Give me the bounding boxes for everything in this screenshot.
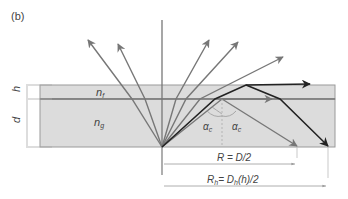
film-thickness-label: h <box>10 86 22 92</box>
glass-thickness-label: d <box>10 116 22 123</box>
radius-h-label: Rh= Dh(h)/2 <box>207 174 259 186</box>
waveguide-diagram: h d nf ng αc αc R = D/2 Rh= Dh(h)/2 <box>0 0 348 199</box>
radius-label: R = D/2 <box>217 152 252 163</box>
